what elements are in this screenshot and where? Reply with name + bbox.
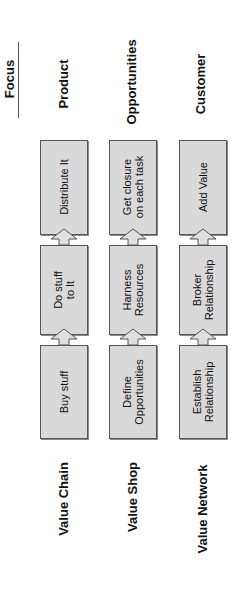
arrow-up-icon <box>50 328 78 346</box>
step-box: Harness Resources <box>109 245 157 335</box>
step-label: Establish Relationship <box>191 346 215 438</box>
step-box: Get closure on each task <box>109 140 157 235</box>
step-box: Define Opportunities <box>109 345 157 439</box>
step-label: Harness Resources <box>121 246 145 334</box>
step-label: Broker Relationship <box>191 246 215 334</box>
arrow-up-icon <box>50 228 78 246</box>
step-label: Buy stuff <box>58 346 70 438</box>
focus-product: Product <box>56 44 72 124</box>
step-box: Do stuff to It <box>40 245 88 335</box>
arrow-up-icon <box>119 328 147 346</box>
step-label: Add Value <box>197 141 209 234</box>
model-value-chain: Value Chain <box>56 449 72 549</box>
step-label: Get closure on each task <box>121 141 145 234</box>
focus-divider <box>18 42 19 118</box>
focus-opportunities: Opportunities <box>124 32 140 132</box>
step-label: Define Opportunities <box>121 346 145 438</box>
step-label: Do stuff to It <box>52 246 76 334</box>
step-box: Establish Relationship <box>179 345 227 439</box>
arrow-up-icon <box>119 228 147 246</box>
model-value-shop: Value Shop <box>125 447 141 547</box>
step-box: Buy stuff <box>40 345 88 439</box>
step-box: Distribute It <box>40 140 88 235</box>
focus-label: Focus <box>3 57 17 101</box>
step-label: Distribute It <box>58 141 70 234</box>
model-value-network: Value Network <box>195 449 211 569</box>
arrow-up-icon <box>189 228 217 246</box>
focus-customer: Customer <box>193 44 209 124</box>
step-box: Broker Relationship <box>179 245 227 335</box>
arrow-up-icon <box>189 328 217 346</box>
step-box: Add Value <box>179 140 227 235</box>
